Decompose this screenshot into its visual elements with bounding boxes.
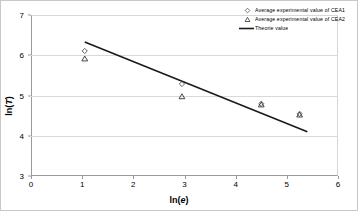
legend-label-cea2: Average experimental value of CEA2 <box>255 17 345 22</box>
x-tick-mark <box>133 176 134 179</box>
x-tick-label: 0 <box>21 180 41 189</box>
x-tick-label: 6 <box>328 180 348 189</box>
series-cea2-markers <box>82 56 303 117</box>
chart-figure: 7 6 5 4 3 0 1 2 3 4 5 6 ln(T) ln(e) <box>0 0 358 211</box>
legend-entry-cea2: Average experimental value of CEA2 <box>239 15 358 24</box>
x-axis-title-prefix: ln( <box>169 195 180 205</box>
legend-entry-cea1: Average experimental value of CEA1 <box>239 6 358 15</box>
y-axis-title-variable: T <box>4 99 14 105</box>
diamond-marker-icon <box>239 6 255 15</box>
y-tick-label: 6 <box>0 51 24 60</box>
x-tick-mark <box>31 176 32 179</box>
x-tick-mark <box>236 176 237 179</box>
y-tick-label: 7 <box>0 11 24 20</box>
x-tick-mark <box>185 176 186 179</box>
y-axis-title-prefix: ln( <box>4 104 14 115</box>
chart-legend: Average experimental value of CEA1 Avera… <box>239 6 358 33</box>
series-cea1-markers <box>82 48 302 116</box>
x-tick-mark <box>82 176 83 179</box>
x-tick-label: 3 <box>175 180 195 189</box>
x-tick-mark <box>287 176 288 179</box>
y-axis-title-suffix: ) <box>4 96 14 99</box>
x-tick-label: 1 <box>72 180 92 189</box>
y-axis-title: ln(T) <box>4 96 14 116</box>
legend-label-cea1: Average experimental value of CEA1 <box>255 8 345 13</box>
x-tick-label: 5 <box>277 180 297 189</box>
legend-label-theory: Theorie value <box>255 26 288 31</box>
line-key-icon <box>239 24 255 33</box>
triangle-marker <box>82 56 88 61</box>
triangle-marker-icon <box>239 15 255 24</box>
triangle-marker <box>179 94 185 99</box>
chart-canvas <box>31 15 338 176</box>
legend-entry-theory: Theorie value <box>239 24 358 33</box>
y-tick-label: 4 <box>0 131 24 140</box>
x-axis-title-suffix: ) <box>186 195 189 205</box>
plot-area <box>31 15 338 176</box>
diamond-marker <box>82 48 87 53</box>
x-axis-title: ln(e) <box>1 195 357 205</box>
theory-line <box>85 42 308 132</box>
x-tick-label: 2 <box>123 180 143 189</box>
x-tick-label: 4 <box>226 180 246 189</box>
x-tick-mark <box>338 176 339 179</box>
